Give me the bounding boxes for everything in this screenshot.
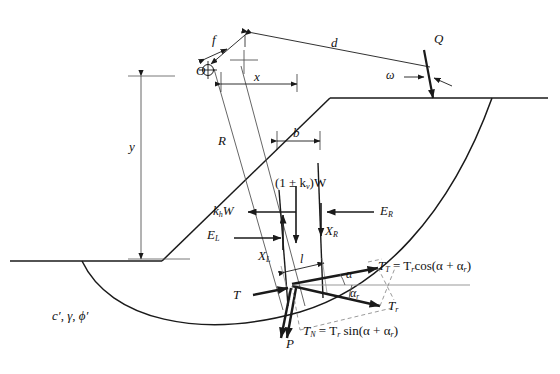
Tr-sub: r xyxy=(395,305,398,314)
figure-canvas: O f d x y b R l Q ω (1 ± kv)W khW EL XL … xyxy=(0,0,560,374)
weight-tail: )W xyxy=(310,175,327,190)
label-d: d xyxy=(331,36,338,49)
TN-tail: sin(α + α xyxy=(340,323,390,338)
label-ER: ER xyxy=(380,204,393,219)
surcharge-load-Q xyxy=(424,50,433,98)
kh-tail: W xyxy=(223,203,234,218)
label-P: P xyxy=(286,337,294,350)
dimension-y xyxy=(128,76,190,259)
label-alpha: α xyxy=(346,268,352,280)
label-f: f xyxy=(212,33,216,46)
force-T-shear xyxy=(253,288,288,295)
equation-TT: TT = Trcos(α + αr) xyxy=(378,259,471,274)
ER-sub: R xyxy=(388,210,393,219)
label-EL: EL xyxy=(207,228,219,243)
alphar-sub: r xyxy=(356,292,359,301)
TN-close: ) xyxy=(394,323,398,338)
XR-sub: R xyxy=(333,230,338,239)
label-R: R xyxy=(218,134,226,147)
TN-eq: = T xyxy=(316,323,338,338)
dimension-d xyxy=(248,32,430,67)
label-XR: XR xyxy=(325,224,338,239)
label-weight-vertical: (1 ± kv)W xyxy=(275,176,326,191)
label-x: x xyxy=(254,70,260,83)
label-b: b xyxy=(293,126,300,139)
ER-head: E xyxy=(380,203,388,218)
label-alpha-r: αr xyxy=(350,287,359,301)
label-Q: Q xyxy=(434,32,443,45)
force-Tr-reinforcement xyxy=(292,268,380,306)
soil-c: c′ xyxy=(52,308,61,323)
label-soil-properties: c′, γ, ϕ′ xyxy=(52,309,88,322)
TT-eq: = T xyxy=(390,258,412,273)
label-Tr: Tr xyxy=(388,299,398,314)
label-center-O: O xyxy=(196,64,205,77)
XL-sub: L xyxy=(266,255,270,264)
equation-TN: TN = Tr sin(α + αr) xyxy=(303,324,398,339)
angle-omega-indicator xyxy=(404,77,452,86)
label-l: l xyxy=(300,253,303,265)
TT-close: ) xyxy=(467,258,471,273)
weight-head: (1 ± k xyxy=(275,175,306,190)
EL-sub: L xyxy=(215,234,219,243)
label-omega: ω xyxy=(386,69,394,81)
label-seismic-horizontal: khW xyxy=(213,204,234,219)
soil-phi: ϕ′ xyxy=(79,308,89,323)
label-y: y xyxy=(129,140,135,153)
label-XL: XL xyxy=(258,249,270,264)
XR-head: X xyxy=(325,223,333,238)
XL-head: X xyxy=(258,248,266,263)
TT-tail: cos(α + α xyxy=(414,258,463,273)
label-T: T xyxy=(233,288,240,301)
EL-head: E xyxy=(207,227,215,242)
